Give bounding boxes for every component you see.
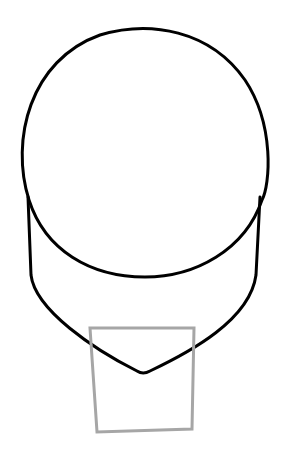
jaw-outline-left[interactable]: [28, 197, 260, 373]
drawing-canvas[interactable]: [0, 0, 283, 458]
cranium-circle[interactable]: [22, 29, 268, 277]
selection-box[interactable]: [90, 328, 194, 432]
